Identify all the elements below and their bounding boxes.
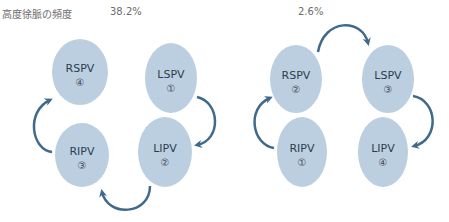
panel-left: RSPV ④ LSPV ① RIPV ③ LIPV ②	[34, 39, 215, 210]
vein-lspv-left: LSPV ①	[145, 43, 197, 113]
svg-text:RSPV: RSPV	[66, 62, 95, 75]
arrow-rspv-to-lspv	[318, 25, 368, 52]
arrow-lipv-to-ripv	[102, 186, 150, 210]
vein-ripv-right: RIPV ①	[277, 117, 327, 187]
panel-right: RSPV ② LSPV ③ RIPV ① LIPV ④	[255, 25, 433, 187]
vein-rspv-left: RSPV ④	[52, 39, 108, 105]
svg-text:①: ①	[167, 83, 176, 94]
svg-text:RIPV: RIPV	[289, 142, 315, 155]
vein-rspv-right: RSPV ②	[270, 45, 322, 113]
svg-text:④: ④	[379, 157, 388, 168]
diagram-canvas: RSPV ④ LSPV ① RIPV ③ LIPV ② RSPV ②	[0, 0, 449, 222]
arrow-ripv-to-rspv	[255, 98, 274, 148]
vein-lipv-left: LIPV ②	[138, 117, 192, 187]
vein-lspv-right: LSPV ③	[362, 45, 414, 113]
svg-text:LIPV: LIPV	[153, 142, 177, 155]
svg-text:④: ④	[76, 77, 85, 88]
arrow-lspv-to-lipv	[413, 96, 433, 146]
svg-text:①: ①	[298, 157, 307, 168]
vein-lipv-right: LIPV ④	[358, 117, 408, 187]
svg-text:RSPV: RSPV	[282, 69, 311, 82]
svg-text:③: ③	[78, 160, 87, 171]
vein-ripv-left: RIPV ③	[55, 123, 109, 187]
svg-text:RIPV: RIPV	[69, 145, 95, 158]
svg-text:②: ②	[161, 157, 170, 168]
svg-text:LSPV: LSPV	[374, 69, 402, 82]
arrow-lspv-to-lipv	[197, 97, 215, 145]
svg-text:LIPV: LIPV	[371, 142, 395, 155]
svg-text:③: ③	[384, 84, 393, 95]
arrow-ripv-to-rspv	[34, 100, 52, 152]
svg-text:②: ②	[292, 84, 301, 95]
svg-text:LSPV: LSPV	[157, 68, 185, 81]
